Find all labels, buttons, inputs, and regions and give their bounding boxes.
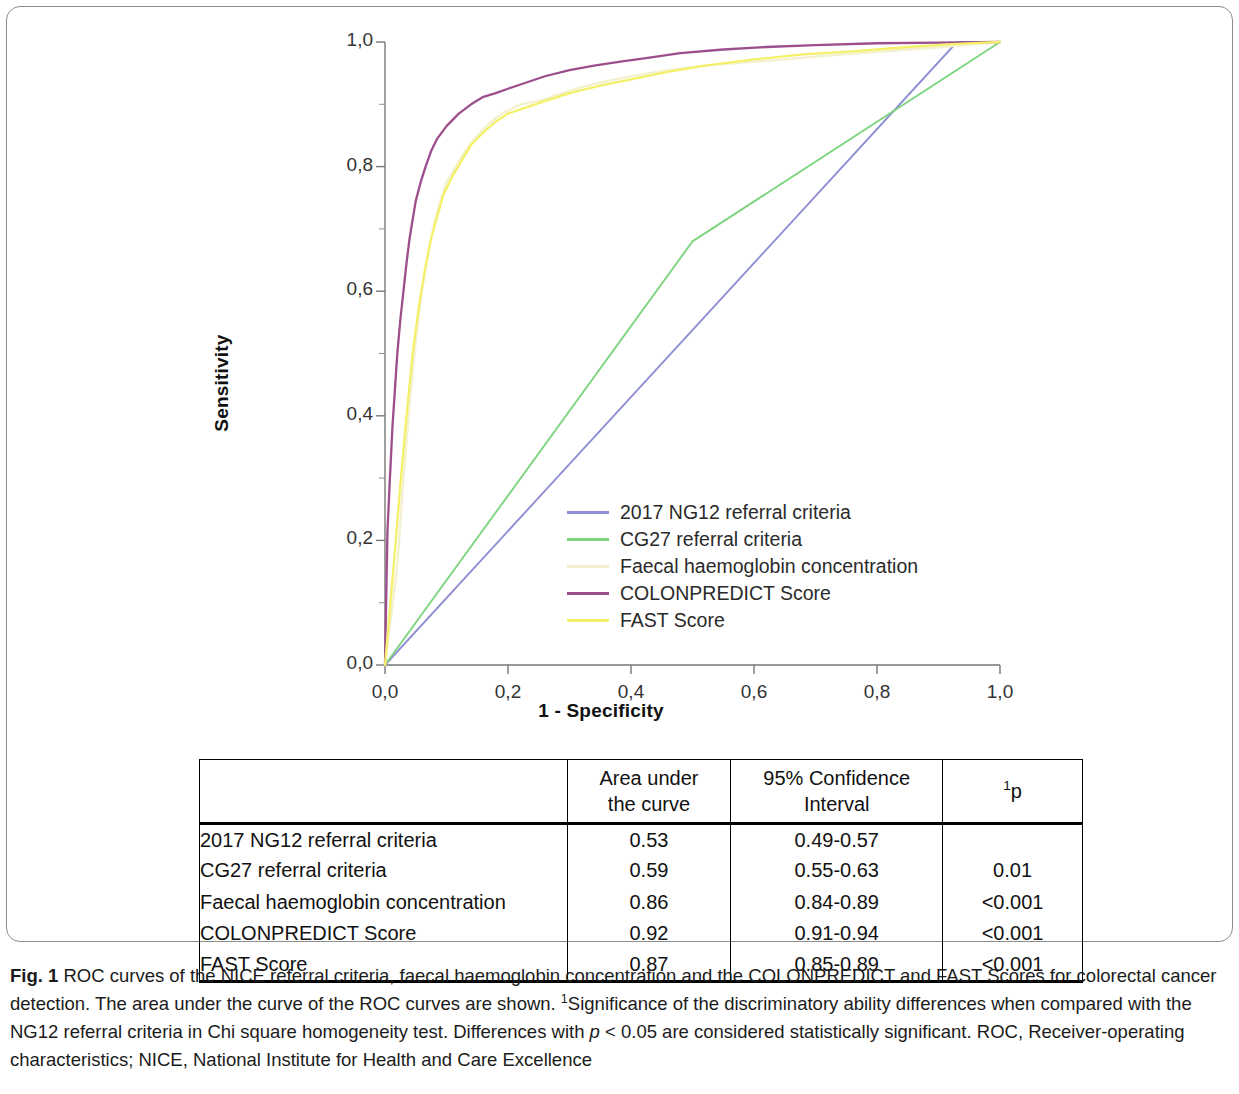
- legend-item: Faecal haemoglobin concentration: [567, 553, 918, 580]
- row-auc: 0.53: [567, 824, 731, 856]
- x-tick-label: 0,2: [495, 681, 521, 703]
- header-auc-line2: the curve: [608, 793, 690, 815]
- legend-item: FAST Score: [567, 607, 918, 634]
- legend-item: COLONPREDICT Score: [567, 580, 918, 607]
- roc-chart: 0,0 0,2 0,4 0,6 0,8 1,0 0,0 0,2 0,4 0,6 …: [7, 7, 1234, 737]
- figure-label: Fig. 1: [10, 965, 58, 986]
- row-p: <0.001: [943, 887, 1083, 919]
- row-name: 2017 NG12 referral criteria: [200, 824, 568, 856]
- caption-italic-p: p: [590, 1021, 600, 1042]
- y-tick-label: 0,6: [327, 278, 373, 300]
- row-auc: 0.92: [567, 918, 731, 950]
- x-axis-title: 1 - Specificity: [538, 700, 664, 722]
- legend-label: FAST Score: [620, 609, 725, 632]
- x-tick-label: 1,0: [987, 681, 1013, 703]
- row-p: [943, 824, 1083, 856]
- chart-legend: 2017 NG12 referral criteriaCG27 referral…: [567, 499, 918, 634]
- auc-table-container: Area under the curve 95% Confidence Inte…: [199, 759, 1083, 983]
- row-name: CG27 referral criteria: [200, 855, 568, 887]
- row-ci: 0.84-0.89: [731, 887, 943, 919]
- header-p-text: p: [1011, 780, 1022, 802]
- header-ci-line2: Interval: [804, 793, 870, 815]
- legend-color-swatch: [567, 538, 609, 541]
- figure-caption: Fig. 1 ROC curves of the NICE referral c…: [10, 962, 1225, 1075]
- legend-label: 2017 NG12 referral criteria: [620, 501, 851, 524]
- y-tick-label: 1,0: [327, 29, 373, 51]
- header-p: 1p: [943, 760, 1083, 824]
- y-axis-title: Sensitivity: [211, 334, 233, 431]
- legend-item: CG27 referral criteria: [567, 526, 918, 553]
- table-row: CG27 referral criteria0.590.55-0.630.01: [200, 855, 1083, 887]
- y-tick-label: 0,0: [327, 652, 373, 674]
- header-auc-line1: Area under: [599, 767, 698, 789]
- header-blank: [200, 760, 568, 824]
- legend-label: COLONPREDICT Score: [620, 582, 831, 605]
- table-body: 2017 NG12 referral criteria0.530.49-0.57…: [200, 824, 1083, 982]
- y-tick-label: 0,2: [327, 527, 373, 549]
- header-ci-line1: 95% Confidence: [763, 767, 910, 789]
- table-header: Area under the curve 95% Confidence Inte…: [200, 760, 1083, 824]
- legend-label: Faecal haemoglobin concentration: [620, 555, 918, 578]
- row-ci: 0.49-0.57: [731, 824, 943, 856]
- x-tick-label: 0,8: [864, 681, 890, 703]
- row-auc: 0.59: [567, 855, 731, 887]
- legend-color-swatch: [567, 592, 609, 595]
- y-tick-label: 0,4: [327, 403, 373, 425]
- row-ci: 0.91-0.94: [731, 918, 943, 950]
- header-p-superscript: 1: [1003, 778, 1011, 793]
- row-auc: 0.86: [567, 887, 731, 919]
- caption-superscript: 1: [561, 992, 568, 1006]
- legend-color-swatch: [567, 619, 609, 622]
- x-tick-label: 0,6: [741, 681, 767, 703]
- figure-frame: 0,0 0,2 0,4 0,6 0,8 1,0 0,0 0,2 0,4 0,6 …: [6, 6, 1233, 942]
- legend-label: CG27 referral criteria: [620, 528, 802, 551]
- x-tick-label: 0,0: [372, 681, 398, 703]
- legend-color-swatch: [567, 565, 609, 568]
- header-auc: Area under the curve: [567, 760, 731, 824]
- table-header-row: Area under the curve 95% Confidence Inte…: [200, 760, 1083, 824]
- y-tick-label: 0,8: [327, 154, 373, 176]
- legend-item: 2017 NG12 referral criteria: [567, 499, 918, 526]
- table-row: COLONPREDICT Score0.920.91-0.94<0.001: [200, 918, 1083, 950]
- row-p: 0.01: [943, 855, 1083, 887]
- table-row: 2017 NG12 referral criteria0.530.49-0.57: [200, 824, 1083, 856]
- row-ci: 0.55-0.63: [731, 855, 943, 887]
- table-row: Faecal haemoglobin concentration0.860.84…: [200, 887, 1083, 919]
- auc-table: Area under the curve 95% Confidence Inte…: [199, 759, 1083, 983]
- legend-color-swatch: [567, 511, 609, 514]
- row-p: <0.001: [943, 918, 1083, 950]
- row-name: COLONPREDICT Score: [200, 918, 568, 950]
- row-name: Faecal haemoglobin concentration: [200, 887, 568, 919]
- header-ci: 95% Confidence Interval: [731, 760, 943, 824]
